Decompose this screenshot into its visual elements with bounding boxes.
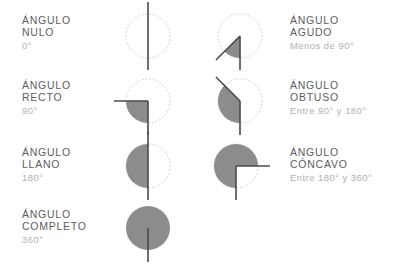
angle-subtitle-agudo: Menos de 90° — [290, 40, 354, 51]
angle-title-line1-nulo: ÁNGULO — [22, 14, 71, 26]
angle-title-line1-llano: ÁNGULO — [22, 146, 71, 158]
angle-title-line2-completo: COMPLETO — [22, 220, 87, 232]
angle-figure-concavo — [196, 126, 276, 206]
angle-label-agudo: ÁNGULOAGUDOMenos de 90° — [290, 14, 354, 51]
angle-diagram-completo — [108, 188, 188, 265]
angle-title-line2-obtuso: OBTUSO — [290, 91, 367, 103]
angle-sector-recto — [126, 101, 148, 123]
angle-title-line2-recto: RECTO — [22, 91, 71, 103]
angle-label-obtuso: ÁNGULOOBTUSOEntre 90° y 180° — [290, 79, 367, 116]
angle-subtitle-llano: 180° — [22, 172, 71, 183]
angle-diagram-concavo — [196, 126, 276, 206]
angle-label-recto: ÁNGULORECTO90° — [22, 79, 71, 116]
angle-types-infographic: ÁNGULONULO0°ÁNGULOAGUDOMenos de 90°ÁNGUL… — [0, 0, 395, 265]
angle-subtitle-concavo: Entre 180° y 360° — [290, 172, 372, 183]
angle-figure-completo — [108, 188, 188, 265]
angle-title-line2-nulo: NULO — [22, 26, 71, 38]
angle-subtitle-nulo: 0° — [22, 40, 71, 51]
angle-sector-llano — [126, 144, 148, 188]
angle-title-line1-obtuso: ÁNGULO — [290, 79, 367, 91]
angle-title-line2-concavo: CÓNCAVO — [290, 158, 372, 170]
angle-label-llano: ÁNGULOLLANO180° — [22, 146, 71, 183]
angle-title-line2-llano: LLANO — [22, 158, 71, 170]
angle-title-line1-completo: ÁNGULO — [22, 208, 87, 220]
angle-title-line1-concavo: ÁNGULO — [290, 146, 372, 158]
angle-subtitle-recto: 90° — [22, 105, 71, 116]
angle-title-line1-agudo: ÁNGULO — [290, 14, 354, 26]
angle-subtitle-obtuso: Entre 90° y 180° — [290, 105, 367, 116]
angle-title-line1-recto: ÁNGULO — [22, 79, 71, 91]
angle-label-nulo: ÁNGULONULO0° — [22, 14, 71, 51]
angle-title-line2-agudo: AGUDO — [290, 26, 354, 38]
angle-subtitle-completo: 360° — [22, 234, 87, 245]
angle-label-concavo: ÁNGULOCÓNCAVOEntre 180° y 360° — [290, 146, 372, 183]
angle-label-completo: ÁNGULOCOMPLETO360° — [22, 208, 87, 245]
